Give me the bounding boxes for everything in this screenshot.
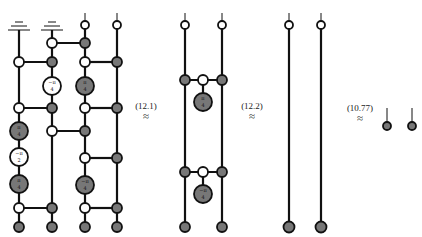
svg-text:−π: −π xyxy=(199,187,207,193)
panel-3-circuit xyxy=(284,13,327,233)
svg-text:−π: −π xyxy=(81,178,89,184)
x-phase-spider: −π 4 xyxy=(194,185,212,203)
x-phase-spider: −π 4 xyxy=(76,176,94,194)
z-phase-spider: −π 2 xyxy=(10,148,28,166)
panel-1-circuit: −π 4 π 4 π 4 −π 2 π 4 xyxy=(8,13,122,232)
z-phase-spider: −π 4 xyxy=(43,77,61,95)
svg-text:4: 4 xyxy=(17,131,20,137)
ground-icon xyxy=(8,22,30,30)
panel-2-circuit: π 4 −π 4 xyxy=(180,13,227,232)
svg-text:4: 4 xyxy=(201,102,204,108)
equation-label-2: (12.2) ≈ xyxy=(234,101,270,121)
svg-text:−π: −π xyxy=(48,79,56,85)
svg-text:4: 4 xyxy=(201,194,204,200)
svg-text:−π: −π xyxy=(15,150,23,156)
svg-text:4: 4 xyxy=(83,86,86,92)
approx-symbol: ≈ xyxy=(128,112,164,121)
approx-symbol: ≈ xyxy=(340,114,380,123)
x-phase-spider: π 4 xyxy=(76,77,94,95)
approx-symbol: ≈ xyxy=(234,112,270,121)
equation-label-3: (10.77) ≈ xyxy=(340,103,380,123)
svg-text:4: 4 xyxy=(17,184,20,190)
svg-text:4: 4 xyxy=(50,86,53,92)
equation-label-1: (12.1) ≈ xyxy=(128,101,164,121)
x-phase-spider: π 4 xyxy=(10,122,28,140)
svg-text:4: 4 xyxy=(83,185,86,191)
x-phase-spider: π 4 xyxy=(194,93,212,111)
ground-icon xyxy=(41,22,63,30)
panel-4-circuit xyxy=(383,108,416,130)
svg-text:2: 2 xyxy=(17,157,20,163)
x-phase-spider: π 4 xyxy=(10,175,28,193)
